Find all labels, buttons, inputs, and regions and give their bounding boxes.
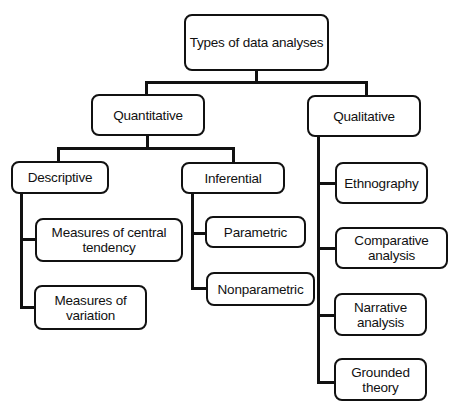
connector-to-nonparametric — [191, 287, 207, 290]
connector-root-branch — [145, 81, 368, 84]
node-label: Qualitative — [333, 109, 395, 124]
node-root: Types of data analyses — [184, 14, 329, 71]
node-label-line: Narrative — [354, 300, 407, 315]
node-label: Ethnography — [344, 176, 418, 191]
node-label: Descriptive — [28, 170, 93, 185]
node-label-line: Measures of central — [52, 225, 167, 240]
connector-to-inferential — [232, 147, 235, 163]
node-label: Inferential — [204, 171, 261, 186]
node-label: Types of data analyses — [190, 35, 324, 50]
node-descriptive: Descriptive — [11, 161, 109, 194]
connector-qualitative-spine — [317, 135, 320, 384]
connector-to-variation — [20, 306, 35, 309]
connector-to-narrative — [317, 314, 335, 317]
node-grounded-theory: Grounded theory — [334, 358, 427, 401]
connector-to-central-tendency — [20, 238, 36, 241]
node-label-line: analysis — [357, 315, 404, 330]
connector-to-quantitative — [145, 81, 148, 95]
node-nonparametric: Nonparametric — [206, 272, 315, 306]
node-label-line: Measures of — [54, 293, 126, 308]
node-label: Parametric — [224, 225, 287, 240]
node-label: Quantitative — [113, 108, 183, 123]
node-qualitative: Qualitative — [307, 95, 421, 137]
node-measures-variation: Measures of variation — [34, 285, 147, 330]
connector-to-grounded — [317, 381, 335, 384]
connector-to-ethnography — [317, 182, 336, 185]
node-label-line: tendency — [82, 240, 135, 255]
connector-descriptive-spine — [20, 192, 23, 309]
node-comparative-analysis: Comparative analysis — [335, 227, 448, 269]
connector-quantitative-branch — [57, 147, 235, 150]
node-label-line: analysis — [368, 248, 415, 263]
node-quantitative: Quantitative — [91, 94, 205, 136]
node-measures-central-tendency: Measures of central tendency — [35, 218, 183, 262]
connector-inferential-spine — [191, 192, 194, 290]
connector-to-parametric — [191, 232, 206, 235]
connector-to-comparative — [317, 247, 336, 250]
connector-to-descriptive — [57, 147, 60, 162]
connector-to-qualitative — [365, 81, 368, 96]
node-narrative-analysis: Narrative analysis — [334, 293, 427, 336]
node-label-line: variation — [66, 308, 115, 323]
node-parametric: Parametric — [205, 216, 306, 248]
node-inferential: Inferential — [181, 162, 285, 194]
node-label-line: Comparative — [354, 233, 428, 248]
node-ethnography: Ethnography — [335, 162, 428, 204]
node-label-line: theory — [362, 380, 398, 395]
node-label: Nonparametric — [218, 282, 304, 297]
node-label-line: Grounded — [351, 365, 409, 380]
